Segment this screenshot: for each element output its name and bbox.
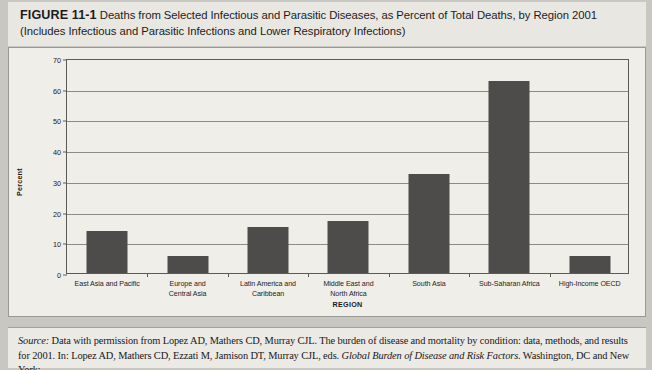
source-publication-title: Global Burden of Disease and Risk Factor… (342, 350, 519, 361)
source-block: Source: Data with permission from Lopez … (8, 327, 646, 368)
x-axis-tick-mark (308, 273, 309, 277)
y-axis-title: Percent (15, 168, 24, 196)
bar (489, 81, 530, 273)
x-axis-tick-label: Latin America andCaribbean (222, 280, 314, 299)
figure-number-label: FIGURE 11-1 (20, 8, 97, 22)
figure-title-block: FIGURE 11-1 Deaths from Selected Infecti… (8, 2, 646, 46)
x-axis-tick-mark (389, 273, 390, 277)
y-axis-tick-label: 10 (53, 240, 61, 249)
x-axis-tick-mark (228, 273, 229, 277)
y-axis-tick-label: 50 (53, 117, 61, 126)
source-text: Source: Data with permission from Lopez … (18, 334, 638, 370)
bar-group: Middle East andNorth Africa (308, 60, 388, 273)
x-axis-tick-label-line: Central Asia (142, 290, 234, 300)
x-axis-tick-label: South Asia (383, 280, 475, 290)
x-axis-tick-label-line: Europe and (142, 280, 234, 290)
figure-page: FIGURE 11-1 Deaths from Selected Infecti… (0, 0, 652, 370)
y-axis-tick-label: 60 (53, 86, 61, 95)
bar-group: High-Income OECD (550, 60, 630, 273)
y-axis-tick-label: 70 (53, 56, 61, 65)
x-axis-tick-label-line: Caribbean (222, 290, 314, 300)
y-axis-tick-label: 0 (57, 271, 61, 280)
bar-group: Sub-Saharan Africa (469, 60, 549, 273)
bar-group: East Asia and Pacific (67, 60, 147, 273)
figure-title-line-1: FIGURE 11-1 Deaths from Selected Infecti… (20, 7, 636, 23)
bar (87, 231, 128, 273)
chart-panel: Percent 010203040506070 East Asia and Pa… (8, 47, 646, 317)
y-axis-tick-mark (63, 275, 67, 276)
bar (408, 174, 449, 274)
bars-group: East Asia and PacificEurope andCentral A… (67, 60, 628, 273)
source-prefix: Source: (18, 335, 49, 346)
bar (569, 256, 610, 273)
bar-group: South Asia (389, 60, 469, 273)
x-axis-title: REGION (66, 300, 629, 309)
x-axis-tick-label-line: South Asia (383, 280, 475, 290)
x-axis-tick-label-line: High-Income OECD (544, 280, 636, 290)
x-axis-tick-label: Middle East andNorth Africa (302, 280, 394, 299)
x-axis-tick-mark (469, 273, 470, 277)
y-axis-tick-label: 30 (53, 178, 61, 187)
x-axis-tick-mark (550, 273, 551, 277)
plot-area: 010203040506070 East Asia and PacificEur… (66, 59, 629, 274)
x-axis-tick-label-line: Sub-Saharan Africa (463, 280, 555, 290)
x-axis-tick-label-line: Latin America and (222, 280, 314, 290)
figure-caption-line-2: (Includes Infectious and Parasitic Infec… (20, 23, 636, 39)
x-axis-tick-label: Europe andCentral Asia (142, 280, 234, 299)
x-axis-tick-mark (147, 273, 148, 277)
bar (328, 221, 369, 273)
x-axis-tick-label-line: North Africa (302, 290, 394, 300)
y-axis-tick-label: 40 (53, 148, 61, 157)
bar (248, 227, 289, 273)
x-axis-tick-label: Sub-Saharan Africa (463, 280, 555, 290)
figure-caption-line-1: Deaths from Selected Infectious and Para… (100, 9, 597, 21)
x-axis-tick-label: High-Income OECD (544, 280, 636, 290)
bar-group: Europe andCentral Asia (147, 60, 227, 273)
bar-group: Latin America andCaribbean (228, 60, 308, 273)
x-axis-tick-label-line: Middle East and (302, 280, 394, 290)
bar (167, 256, 208, 273)
x-axis-tick-label-line: East Asia and Pacific (61, 280, 153, 290)
y-axis-tick-label: 20 (53, 209, 61, 218)
x-axis-tick-label: East Asia and Pacific (61, 280, 153, 290)
